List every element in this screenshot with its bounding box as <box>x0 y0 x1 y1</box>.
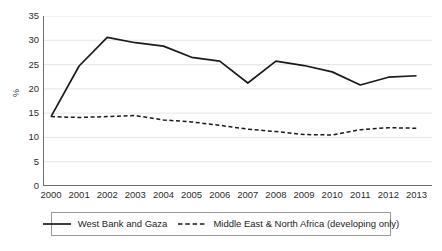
legend-label: West Bank and Gaza <box>78 219 168 229</box>
x-tick-label: 2000 <box>40 190 61 200</box>
y-tick-label: 0 <box>18 181 39 191</box>
grid-lines <box>43 16 432 162</box>
x-tick-label: 2004 <box>153 190 174 200</box>
plot-area <box>43 16 432 186</box>
series-line-middle-east-north-africa-developing-only <box>51 116 417 135</box>
y-tick-label: 15 <box>18 108 39 118</box>
chart-canvas <box>43 16 432 186</box>
y-tick-label: 35 <box>18 11 39 21</box>
y-tick-label: 25 <box>18 60 39 70</box>
x-tick-label: 2007 <box>237 190 258 200</box>
dashed-line-icon <box>178 219 206 229</box>
data-series <box>51 37 417 135</box>
x-axis-tick-labels: 2000200120022003200420052006200720082009… <box>43 190 432 206</box>
series-line-west-bank-and-gaza <box>51 37 417 116</box>
legend-entry: Middle East & North Africa (developing o… <box>178 219 399 229</box>
y-axis-tick-labels: 05101520253035 <box>18 0 39 251</box>
x-tick-label: 2008 <box>265 190 286 200</box>
solid-line-icon <box>43 219 71 229</box>
x-tick-label: 2001 <box>69 190 90 200</box>
axis-lines <box>43 16 432 186</box>
x-tick-label: 2011 <box>350 190 370 200</box>
y-tick-label: 10 <box>18 133 39 143</box>
x-tick-label: 2013 <box>406 190 427 200</box>
x-tick-label: 2003 <box>125 190 146 200</box>
x-tick-label: 2006 <box>209 190 230 200</box>
x-tick-label: 2010 <box>322 190 343 200</box>
chart-legend: West Bank and GazaMiddle East & North Af… <box>51 212 391 236</box>
x-tick-label: 2005 <box>181 190 202 200</box>
chart-figure: % 05101520253035 20002001200220032004200… <box>0 0 442 251</box>
x-tick-label: 2009 <box>293 190 314 200</box>
y-tick-label: 20 <box>18 84 39 94</box>
legend-label: Middle East & North Africa (developing o… <box>213 219 399 229</box>
y-tick-label: 30 <box>18 36 39 46</box>
legend-entry: West Bank and Gaza <box>43 219 168 229</box>
y-tick-label: 5 <box>18 157 39 167</box>
x-tick-label: 2002 <box>97 190 118 200</box>
x-tick-label: 2012 <box>378 190 399 200</box>
